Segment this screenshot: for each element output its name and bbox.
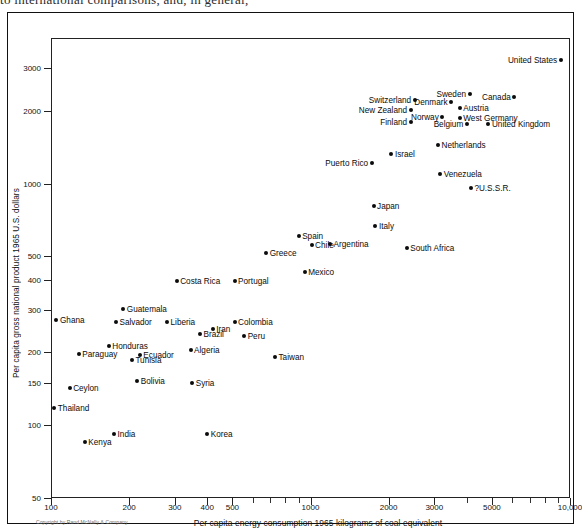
x-tick-label: 2000 bbox=[380, 503, 398, 512]
scatter-point[interactable] bbox=[370, 161, 374, 165]
scatter-point[interactable] bbox=[297, 234, 301, 238]
scatter-point[interactable] bbox=[114, 320, 118, 324]
y-tick-label: 500 bbox=[8, 252, 41, 261]
scatter-point-label: Ghana bbox=[60, 316, 85, 325]
x-tick-minor bbox=[530, 498, 531, 503]
scatter-point[interactable] bbox=[559, 58, 563, 62]
x-tick-minor bbox=[270, 498, 271, 503]
scatter-point[interactable] bbox=[135, 379, 139, 383]
scatter-point[interactable] bbox=[190, 381, 194, 385]
scatter-point[interactable] bbox=[77, 352, 81, 356]
scatter-point-label: Peru bbox=[248, 331, 265, 340]
scatter-point[interactable] bbox=[273, 355, 277, 359]
x-tick-label: 5000 bbox=[483, 503, 501, 512]
scatter-point[interactable] bbox=[233, 279, 237, 283]
scatter-point-label: Chile bbox=[315, 241, 334, 250]
x-tick-label: 200 bbox=[122, 503, 135, 512]
scatter-point[interactable] bbox=[52, 406, 56, 410]
scatter-point[interactable] bbox=[512, 95, 516, 99]
scatter-point[interactable] bbox=[438, 172, 442, 176]
scatter-point-label: Mexico bbox=[308, 268, 334, 277]
scatter-point[interactable] bbox=[310, 243, 314, 247]
x-tick-label: 100 bbox=[44, 503, 57, 512]
scatter-point[interactable] bbox=[440, 115, 444, 119]
scatter-point-label: Costa Rica bbox=[180, 277, 220, 286]
x-tick-minor bbox=[467, 498, 468, 503]
scatter-point[interactable] bbox=[303, 270, 307, 274]
scatter-point-label: Korea bbox=[211, 429, 233, 438]
scatter-point-label: Austria bbox=[463, 103, 488, 112]
scatter-point[interactable] bbox=[409, 120, 413, 124]
scatter-point[interactable] bbox=[458, 106, 462, 110]
scatter-point[interactable] bbox=[405, 246, 409, 250]
scatter-point[interactable] bbox=[436, 143, 440, 147]
scatter-point-label: Argentina bbox=[334, 240, 369, 249]
scatter-point[interactable] bbox=[107, 344, 111, 348]
scatter-point[interactable] bbox=[465, 122, 469, 126]
scatter-point[interactable] bbox=[413, 98, 417, 102]
scatter-point-label: Algeria bbox=[194, 345, 220, 354]
scatter-point[interactable] bbox=[68, 386, 72, 390]
scatter-point[interactable] bbox=[165, 320, 169, 324]
scatter-point[interactable] bbox=[198, 332, 202, 336]
scatter-point-label: United States bbox=[508, 56, 557, 65]
x-tick-minor bbox=[285, 498, 286, 503]
scatter-point[interactable] bbox=[468, 92, 472, 96]
y-tick-label: 150 bbox=[8, 378, 41, 387]
scatter-point[interactable] bbox=[83, 440, 87, 444]
scatter-point-label: New Zealand bbox=[359, 105, 407, 114]
x-tick-minor bbox=[558, 498, 559, 503]
x-axis-title: Per capita energy consumption 1965 kilog… bbox=[128, 518, 508, 528]
y-tick-label: 3000 bbox=[8, 64, 41, 73]
scatter-point-label: Taiwan bbox=[279, 352, 305, 361]
scatter-point-label: United Kingdom bbox=[492, 120, 550, 129]
scatter-point[interactable] bbox=[242, 334, 246, 338]
scatter-point-label: South Africa bbox=[410, 244, 454, 253]
scatter-point-label: Brazil bbox=[203, 330, 223, 339]
scatter-point-label: Colombia bbox=[238, 317, 273, 326]
scatter-point[interactable] bbox=[264, 251, 268, 255]
scatter-point[interactable] bbox=[175, 279, 179, 283]
scatter-point[interactable] bbox=[54, 318, 58, 322]
y-tick-label: 400 bbox=[8, 275, 41, 284]
scatter-point-label: Liberia bbox=[171, 317, 196, 326]
scatter-point-label: Bolivia bbox=[141, 377, 165, 386]
scatter-point[interactable] bbox=[112, 432, 116, 436]
scatter-point[interactable] bbox=[389, 152, 393, 156]
scatter-point[interactable] bbox=[205, 432, 209, 436]
scatter-point[interactable] bbox=[130, 358, 134, 362]
scatter-point[interactable] bbox=[189, 348, 193, 352]
scatter-point[interactable] bbox=[372, 204, 376, 208]
scatter-point[interactable] bbox=[469, 186, 473, 190]
scatter-point-label: Denmark bbox=[414, 98, 447, 107]
scatter-point-label: Ceylon bbox=[73, 384, 99, 393]
scatter-point-label: Salvador bbox=[119, 317, 151, 326]
scatter-point-label: Belgium bbox=[434, 120, 464, 129]
scatter-point-label: Netherlands bbox=[442, 141, 486, 150]
scatter-point-label: Syria bbox=[196, 378, 215, 387]
y-tick-label: 2000 bbox=[8, 106, 41, 115]
scatter-point-label: Guatemala bbox=[127, 305, 167, 314]
x-tick-minor bbox=[253, 498, 254, 503]
x-tick-minor bbox=[545, 498, 546, 503]
scatter-point-label: Kenya bbox=[88, 438, 111, 447]
scatter-point-label: Spain bbox=[302, 232, 323, 241]
x-tick-minor bbox=[512, 498, 513, 503]
x-tick-label: 400 bbox=[201, 503, 214, 512]
x-tick-label: 1000 bbox=[302, 503, 320, 512]
scatter-point[interactable] bbox=[486, 122, 490, 126]
y-tick-label: 200 bbox=[8, 348, 41, 357]
scatter-point-label: Tunisia bbox=[135, 356, 161, 365]
scatter-point-label: ?U.S.S.R. bbox=[474, 183, 510, 192]
scatter-point[interactable] bbox=[121, 307, 125, 311]
x-tick-label: 10,000 bbox=[558, 503, 582, 512]
scatter-point[interactable] bbox=[233, 320, 237, 324]
scatter-point-label: Italy bbox=[379, 221, 394, 230]
y-tick-label: 100 bbox=[8, 421, 41, 430]
scatter-point[interactable] bbox=[409, 108, 413, 112]
scatter-point[interactable] bbox=[449, 100, 453, 104]
scatter-point-label: India bbox=[118, 429, 136, 438]
copyright-note: Copyright by Rand McNally & Company bbox=[36, 519, 128, 525]
scatter-point[interactable] bbox=[373, 224, 377, 228]
scatter-point-label: Thailand bbox=[58, 403, 89, 412]
